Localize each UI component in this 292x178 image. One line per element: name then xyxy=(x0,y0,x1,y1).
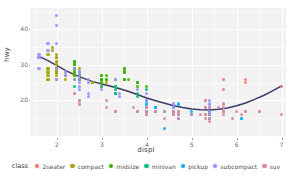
scatter-point-subcompact xyxy=(145,99,148,102)
scatter-point-midsize xyxy=(100,74,103,77)
scatter-point-suv xyxy=(199,113,202,116)
x-tick-mark xyxy=(282,138,283,140)
x-tick-mark xyxy=(57,138,58,140)
legend-label: subcompact xyxy=(220,163,257,170)
scatter-point-subcompact xyxy=(145,92,148,95)
scatter-point-2seater xyxy=(222,78,225,81)
scatter-point-suv xyxy=(222,106,225,109)
scatter-point-minivan xyxy=(73,85,76,88)
chart-figure: hwy 203040 234567 displ class 2seatercom… xyxy=(0,0,292,178)
legend: class 2seatercompactmidsizeminivanpickup… xyxy=(0,158,292,174)
scatter-point-pickup xyxy=(163,127,166,130)
legend-item-midsize[interactable]: midsize xyxy=(108,163,139,170)
scatter-point-suv xyxy=(163,117,166,120)
x-tick-mark xyxy=(237,138,238,140)
plot-panel xyxy=(30,8,286,136)
scatter-point-minivan xyxy=(114,92,117,95)
legend-key-icon xyxy=(69,163,76,170)
scatter-point-subcompact xyxy=(64,74,67,77)
legend-key-icon xyxy=(34,163,41,170)
scatter-point-suv xyxy=(222,113,225,116)
legend-label: suv xyxy=(270,163,280,170)
scatter-point-subcompact xyxy=(55,24,58,27)
scatter-point-minivan xyxy=(145,88,148,91)
scatter-point-suv xyxy=(114,110,117,113)
scatter-point-midsize xyxy=(123,70,126,73)
legend-key-icon xyxy=(180,163,187,170)
scatter-point-suv xyxy=(235,110,238,113)
scatter-point-minivan xyxy=(136,95,139,98)
scatter-point-2seater xyxy=(222,88,225,91)
scatter-point-compact xyxy=(55,70,58,73)
scatter-points xyxy=(30,8,286,136)
scatter-point-midsize xyxy=(105,74,108,77)
legend-key-icon xyxy=(261,163,268,170)
scatter-point-pickup xyxy=(240,117,243,120)
scatter-point-compact xyxy=(46,74,49,77)
legend-label: minivan xyxy=(152,163,176,170)
scatter-point-subcompact xyxy=(100,88,103,91)
scatter-point-compact xyxy=(105,81,108,84)
scatter-point-midsize xyxy=(136,81,139,84)
scatter-point-subcompact xyxy=(87,81,90,84)
scatter-point-suv xyxy=(204,106,207,109)
scatter-point-suv xyxy=(177,113,180,116)
scatter-point-midsize xyxy=(73,70,76,73)
legend-item-minivan[interactable]: minivan xyxy=(143,163,176,170)
scatter-point-suv xyxy=(73,92,76,95)
scatter-point-suv xyxy=(231,117,234,120)
scatter-point-suv xyxy=(145,106,148,109)
scatter-point-subcompact xyxy=(73,67,76,70)
scatter-point-suv xyxy=(136,110,139,113)
scatter-point-minivan xyxy=(114,88,117,91)
scatter-point-pickup xyxy=(177,102,180,105)
scatter-point-subcompact xyxy=(46,49,49,52)
legend-item-subcompact[interactable]: subcompact xyxy=(212,163,257,170)
scatter-point-suv xyxy=(78,102,81,105)
legend-label: 2seater xyxy=(43,163,66,170)
legend-item-suv[interactable]: suv xyxy=(261,163,280,170)
scatter-point-compact xyxy=(51,49,54,52)
scatter-point-compact xyxy=(46,53,49,56)
legend-key-icon xyxy=(143,163,150,170)
scatter-point-suv xyxy=(190,113,193,116)
scatter-point-suv xyxy=(145,113,148,116)
legend-label: pickup xyxy=(188,163,208,170)
legend-title: class xyxy=(12,162,28,170)
scatter-point-suv xyxy=(208,113,211,116)
scatter-point-compact xyxy=(64,78,67,81)
scatter-point-compact xyxy=(55,74,58,77)
scatter-point-compact xyxy=(55,56,58,59)
x-axis-title: displ xyxy=(0,146,292,154)
scatter-point-suv xyxy=(154,110,157,113)
scatter-point-suv xyxy=(244,110,247,113)
legend-item-pickup[interactable]: pickup xyxy=(180,163,208,170)
scatter-point-suv xyxy=(208,106,211,109)
scatter-point-pickup xyxy=(154,106,157,109)
x-tick-mark xyxy=(147,138,148,140)
scatter-point-subcompact xyxy=(172,106,175,109)
scatter-point-midsize xyxy=(100,81,103,84)
legend-label: midsize xyxy=(116,163,139,170)
legend-key-icon xyxy=(212,163,219,170)
scatter-point-subcompact xyxy=(78,81,81,84)
scatter-point-suv xyxy=(177,117,180,120)
scatter-point-subcompact xyxy=(37,56,40,59)
x-tick-mark xyxy=(192,138,193,140)
scatter-point-suv xyxy=(280,113,283,116)
scatter-point-subcompact xyxy=(37,67,40,70)
scatter-point-subcompact xyxy=(55,42,58,45)
legend-item-compact[interactable]: compact xyxy=(69,163,103,170)
legend-item-2seater[interactable]: 2seater xyxy=(34,163,65,170)
scatter-point-suv xyxy=(204,99,207,102)
x-tick-mark xyxy=(102,138,103,140)
scatter-point-subcompact xyxy=(55,67,58,70)
scatter-point-suv xyxy=(105,106,108,109)
scatter-point-subcompact xyxy=(55,14,58,17)
scatter-point-compact xyxy=(91,81,94,84)
y-tick-label: 20 xyxy=(6,97,28,103)
scatter-point-suv xyxy=(204,113,207,116)
y-tick-label: 30 xyxy=(6,62,28,68)
scatter-point-suv xyxy=(208,120,211,123)
scatter-point-subcompact xyxy=(46,42,49,45)
